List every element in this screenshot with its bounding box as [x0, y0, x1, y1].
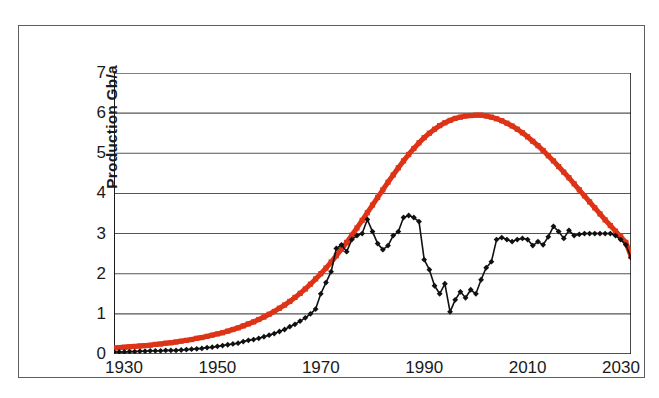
data-point-marker — [360, 218, 365, 223]
data-point-marker — [535, 143, 540, 148]
data-point-marker — [597, 231, 603, 237]
data-point-marker — [194, 336, 199, 341]
y-axis-ticks: 01234567 — [76, 73, 106, 354]
data-point-marker — [478, 113, 483, 118]
data-point-marker — [582, 193, 587, 198]
data-point-marker — [220, 343, 226, 349]
data-point-marker — [504, 121, 509, 126]
y-tick-label: 0 — [80, 344, 106, 364]
data-point-marker — [520, 235, 526, 241]
data-point-marker — [504, 237, 510, 243]
y-tick-label: 7 — [80, 63, 106, 83]
series-line — [114, 216, 631, 352]
data-point-marker — [323, 265, 328, 270]
x-tick-label: 2010 — [509, 358, 547, 378]
data-point-marker — [251, 319, 256, 324]
data-point-marker — [453, 116, 458, 121]
data-point-marker — [572, 181, 577, 186]
data-point-marker — [215, 331, 220, 336]
data-point-marker — [602, 231, 608, 237]
data-point-marker — [422, 135, 427, 140]
data-point-marker — [179, 339, 184, 344]
data-point-marker — [210, 333, 215, 338]
data-point-marker — [566, 175, 571, 180]
data-point-marker — [313, 276, 318, 281]
data-point-marker — [137, 343, 142, 348]
data-point-marker — [494, 237, 500, 243]
data-point-marker — [173, 347, 179, 353]
y-tick-label: 6 — [80, 103, 106, 123]
data-point-marker — [235, 325, 240, 330]
data-point-marker — [282, 302, 287, 307]
data-point-marker — [256, 317, 261, 322]
data-point-marker — [499, 235, 505, 241]
data-point-marker — [587, 199, 592, 204]
data-point-marker — [607, 231, 613, 237]
data-point-marker — [484, 113, 489, 118]
chart-figure: Production Gb/a 01234567 193019501970199… — [0, 0, 659, 398]
data-point-marker — [277, 306, 282, 311]
data-point-marker — [282, 327, 288, 333]
data-point-marker — [421, 257, 427, 263]
data-point-marker — [426, 267, 432, 273]
data-point-marker — [298, 291, 303, 296]
data-point-marker — [592, 205, 597, 210]
data-point-marker — [318, 271, 323, 276]
x-tick-label: 1990 — [405, 358, 443, 378]
data-point-marker — [287, 299, 292, 304]
data-point-marker — [478, 277, 484, 283]
data-point-marker — [215, 343, 221, 349]
data-point-marker — [458, 115, 463, 120]
data-point-marker — [370, 202, 375, 207]
data-point-marker — [463, 113, 468, 118]
y-tick-label: 4 — [80, 183, 106, 203]
data-point-marker — [530, 139, 535, 144]
data-point-marker — [225, 342, 231, 348]
x-axis-ticks: 193019501970199020102030 — [114, 358, 631, 386]
x-tick-label: 1950 — [198, 358, 236, 378]
data-point-marker — [199, 335, 204, 340]
data-point-marker — [235, 340, 241, 346]
data-point-marker — [168, 347, 174, 353]
data-point-marker — [365, 210, 370, 215]
data-point-marker — [158, 341, 163, 346]
data-point-marker — [303, 286, 308, 291]
data-point-marker — [220, 330, 225, 335]
data-point-marker — [318, 291, 324, 297]
data-point-marker — [287, 324, 293, 330]
data-point-marker — [261, 334, 267, 340]
data-point-marker — [576, 231, 582, 237]
data-point-marker — [158, 348, 164, 354]
data-point-marker — [380, 187, 385, 192]
data-point-marker — [246, 321, 251, 326]
plot-area — [114, 73, 631, 354]
data-point-marker — [359, 231, 365, 237]
data-point-marker — [447, 118, 452, 123]
data-point-marker — [308, 282, 313, 287]
data-point-marker — [437, 123, 442, 128]
data-point-marker — [494, 116, 499, 121]
data-point-marker — [152, 348, 158, 354]
data-point-marker — [411, 146, 416, 151]
data-point-marker — [354, 225, 359, 230]
data-point-marker — [225, 329, 230, 334]
data-point-marker — [427, 131, 432, 136]
chart-canvas — [114, 73, 631, 354]
data-point-marker — [292, 295, 297, 300]
y-tick-label: 5 — [80, 143, 106, 163]
x-tick-label: 1930 — [105, 358, 143, 378]
data-point-marker — [122, 345, 127, 350]
data-point-marker — [514, 237, 520, 243]
data-point-marker — [442, 281, 448, 287]
data-point-marker — [199, 345, 205, 351]
data-point-marker — [189, 346, 195, 352]
data-point-marker — [551, 158, 556, 163]
data-point-marker — [230, 327, 235, 332]
data-point-marker — [385, 180, 390, 185]
data-point-marker — [396, 165, 401, 170]
data-point-marker — [391, 172, 396, 177]
data-point-marker — [468, 113, 473, 118]
data-point-marker — [561, 170, 566, 175]
data-point-marker — [163, 341, 168, 346]
data-point-marker — [142, 348, 148, 354]
